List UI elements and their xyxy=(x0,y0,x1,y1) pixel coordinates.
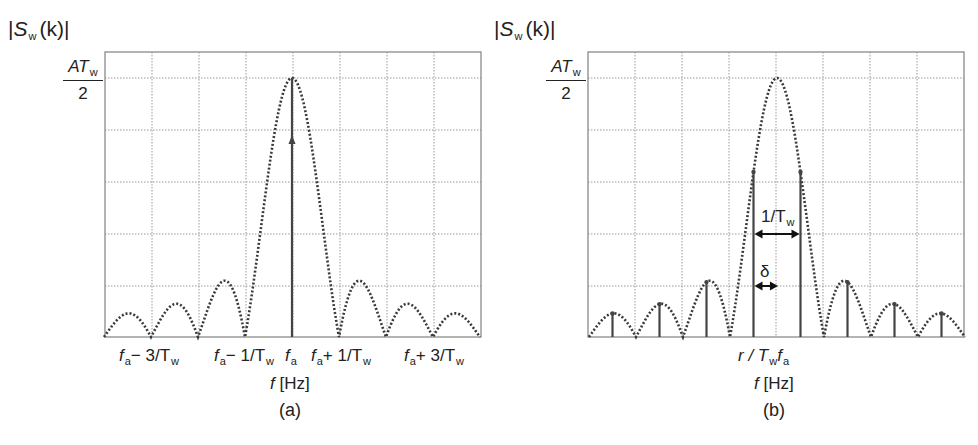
delta-double-arrow xyxy=(755,282,778,291)
panel-a-y-tick-peak: ATw 2 xyxy=(63,58,103,102)
stem-marker xyxy=(798,170,802,174)
stem-marker xyxy=(751,170,755,174)
arrow-left-head-icon xyxy=(755,282,763,291)
stem-marker xyxy=(845,280,849,284)
stem-marker xyxy=(892,302,896,306)
arrow-left-head-icon xyxy=(755,230,763,239)
panel-a-y-axis-label: |Sw(k)| xyxy=(8,18,69,42)
panel-b-caption: (b) xyxy=(763,401,785,419)
bin-spacing-double-arrow xyxy=(755,230,800,239)
stem-marker xyxy=(610,311,614,315)
arrow-right-head-icon xyxy=(770,282,778,291)
panel-a-x-tick-plus1: fa+ 1/Tw xyxy=(311,347,371,367)
panel-a-caption: (a) xyxy=(279,401,301,419)
panel-b-plot xyxy=(588,52,965,337)
panel-a-x-tick-plus3: fa+ 3/Tw xyxy=(404,347,464,367)
bin-spacing-label: 1/Tw xyxy=(761,208,795,228)
panel-a-plot xyxy=(104,52,481,337)
panel-a-x-tick-center: fa xyxy=(285,347,297,367)
panel-b-y-tick-peak: ATw 2 xyxy=(546,58,586,102)
panel-b-x-tick-bin: r / Twfa xyxy=(738,347,789,367)
stem-marker xyxy=(657,302,661,306)
panel-a-x-tick-minus1: fa− 1/Tw xyxy=(214,347,274,367)
stem-marker xyxy=(704,280,708,284)
panel-b-y-axis-label: |Sw(k)| xyxy=(494,18,555,42)
arrow-right-head-icon xyxy=(792,230,800,239)
panel-a-x-tick-minus3: fa− 3/Tw xyxy=(119,347,179,367)
delta-label: δ xyxy=(760,263,769,280)
figure-canvas xyxy=(0,0,978,445)
stem-marker xyxy=(939,311,943,315)
panel-a-x-axis-title: f [Hz] xyxy=(270,375,310,392)
panel-b-x-axis-title: f [Hz] xyxy=(754,375,794,392)
arrowhead-icon xyxy=(289,135,296,144)
